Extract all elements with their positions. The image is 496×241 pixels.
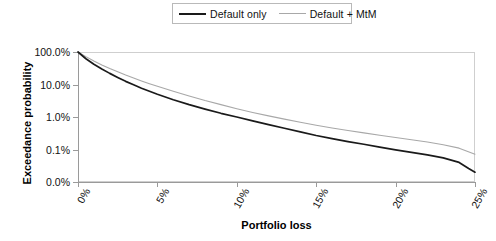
chart-legend: Default only Default + MtM	[172, 3, 352, 24]
legend-swatch-default-plus-mtm	[279, 13, 306, 14]
x-tick-mark	[396, 182, 397, 187]
x-tick-mark	[157, 182, 158, 187]
x-tick-mark	[78, 182, 79, 187]
legend-swatch-default-only	[179, 13, 206, 15]
y-tick-label: 10.0%	[0, 79, 70, 91]
y-tick-label: 0.1%	[0, 144, 70, 156]
legend-label-default-only: Default only	[210, 8, 267, 20]
y-axis-line	[78, 52, 79, 183]
y-tick-mark	[73, 150, 78, 151]
x-tick-label: 25%	[468, 186, 489, 210]
x-tick-label: 15%	[310, 186, 331, 210]
chart-figure: Default only Default + MtM Exceedance pr…	[0, 0, 496, 241]
y-tick-label: 100.0%	[0, 46, 70, 58]
x-tick-label: 0%	[74, 186, 92, 205]
legend-entry-default-plus-mtm: Default + MtM	[267, 4, 377, 23]
x-tick-mark	[316, 182, 317, 187]
y-tick-label: 1.0%	[0, 111, 70, 123]
x-tick-label: 10%	[230, 186, 251, 210]
x-axis-title: Portfolio loss	[78, 219, 475, 231]
y-tick-mark	[73, 85, 78, 86]
x-axis-line	[78, 182, 476, 183]
legend-label-default-plus-mtm: Default + MtM	[310, 8, 377, 20]
y-tick-mark	[73, 52, 78, 53]
plot-area	[78, 52, 475, 182]
x-tick-mark	[475, 182, 476, 187]
y-tick-mark	[73, 117, 78, 118]
x-tick-label: 5%	[154, 186, 172, 205]
y-tick-label: 0.0%	[0, 176, 70, 188]
legend-entry-default-only: Default only	[173, 4, 267, 23]
x-tick-mark	[237, 182, 238, 187]
x-tick-label: 20%	[389, 186, 410, 210]
